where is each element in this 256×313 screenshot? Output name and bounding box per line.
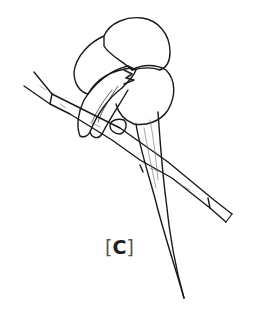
upper-petal [104,18,170,70]
botanical-illustration [0,0,256,313]
label-bracket-close: ] [126,236,133,258]
label-letter: C [112,236,126,258]
figure-label: [C] [105,236,134,258]
stem [24,72,232,222]
left-petal [74,36,132,94]
